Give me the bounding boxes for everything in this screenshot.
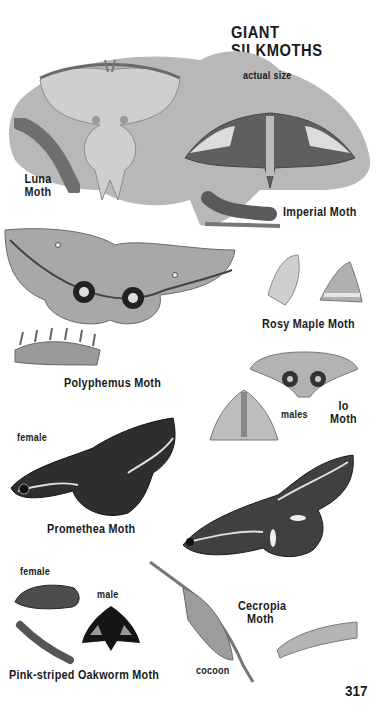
cecropia-moth-illustration — [178, 450, 358, 560]
polyphemus-caterpillar-illustration — [5, 320, 105, 370]
oakworm-female-illustration — [12, 580, 82, 610]
cecropia-cocoon-label: cocoon — [196, 665, 230, 676]
io-moth-label: Io Moth — [330, 400, 357, 426]
oakworm-female-label: female — [20, 566, 50, 577]
imperial-moth-label: Imperial Moth — [283, 206, 357, 219]
oakworm-moth-label: Pink-striped Oakworm Moth — [9, 669, 159, 682]
rosy-maple-moth-label: Rosy Maple Moth — [262, 318, 355, 331]
cecropia-caterpillar-illustration — [272, 610, 362, 660]
actual-size-label: actual size — [243, 70, 279, 81]
polyphemus-moth-label: Polyphemus Moth — [64, 377, 161, 390]
oakworm-male-illustration — [80, 603, 142, 651]
rosy-maple-moth-illustration — [260, 250, 365, 310]
luna-moth-label: Luna Moth — [20, 173, 56, 199]
promethea-moth-label: Promethea Moth — [47, 523, 135, 536]
oakworm-male-label: male — [97, 589, 119, 600]
promethea-moth-illustration — [8, 413, 183, 521]
io-moth-male-illustration-2 — [208, 382, 280, 444]
polyphemus-moth-illustration — [0, 220, 240, 330]
oakworm-caterpillar-illustration — [15, 620, 75, 665]
page-number: 317 — [345, 682, 368, 699]
io-moth-sex-label: males — [281, 409, 308, 420]
